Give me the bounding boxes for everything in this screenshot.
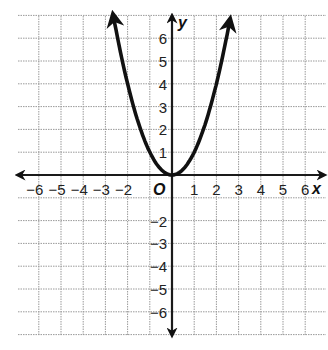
x-tick-label: −4 [71,181,88,198]
y-tick-label: 2 [159,121,167,138]
y-tick-label: −6 [150,304,167,321]
x-tick-label: 2 [212,181,220,198]
y-tick-label: −3 [150,235,167,252]
x-tick-label: 5 [279,181,287,198]
x-tick-label: −5 [48,181,65,198]
y-tick-label: −5 [150,281,167,298]
x-tick-label: 4 [257,181,265,198]
y-tick-label: −2 [150,213,167,230]
y-tick-label: 3 [159,99,167,116]
x-tick-label: −3 [93,181,110,198]
coordinate-plane: −6−5−4−3−2123456123456−2−3−4−5−6 x y O [0,0,328,350]
x-tick-label: 1 [190,181,198,198]
y-tick-label: 1 [159,144,167,161]
origin-label: O [153,181,166,198]
y-tick-label: 6 [159,30,167,47]
x-tick-label: 6 [301,181,309,198]
x-tick-label: 3 [234,181,242,198]
x-tick-label: −6 [26,181,43,198]
y-axis-label: y [177,14,188,31]
y-tick-label: 4 [159,76,167,93]
x-tick-label: −2 [115,181,132,198]
x-axis-label: x [311,180,322,197]
y-tick-label: 5 [159,53,167,70]
y-tick-label: −4 [150,258,167,275]
